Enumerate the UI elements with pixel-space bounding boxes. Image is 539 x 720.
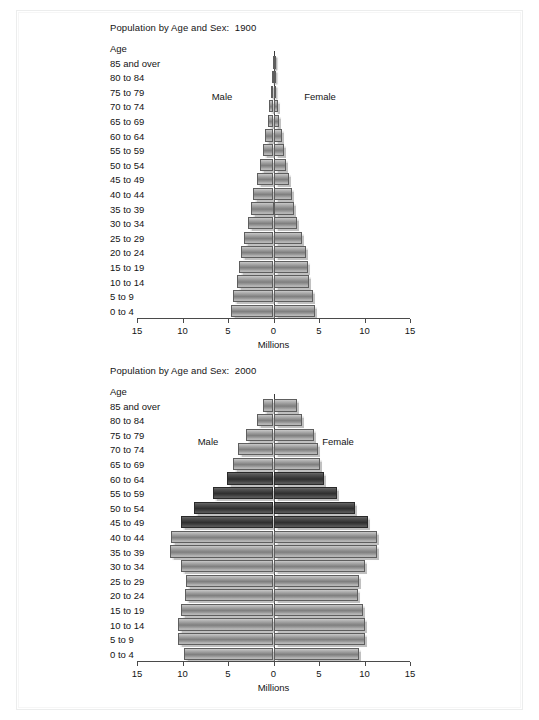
bar-female-25-to-29 [274,232,302,244]
bar-female-5-to-9 [274,633,365,645]
age-label-30-to-34: 30 to 34 [110,218,144,229]
male-annotation: Male [198,436,219,447]
age-label-80-to-84: 80 to 84 [110,72,144,83]
bar-male-50-to-54 [260,159,274,171]
bar-male-85-and-over [263,399,274,411]
age-label-35-to-39: 35 to 39 [110,203,144,214]
x-axis-title: Millions [258,682,290,693]
bar-female-80-to-84 [274,71,276,83]
bar-male-55-to-59 [213,487,273,499]
x-tick-label: 5 [316,668,321,679]
bar-male-80-to-84 [257,414,273,426]
bar-female-65-to-69 [274,458,320,470]
x-tick-label: 15 [132,325,143,336]
x-tick-label: 10 [177,668,188,679]
age-label-50-to-54: 50 to 54 [110,159,144,170]
bar-male-40-to-44 [253,188,273,200]
bar-female-70-to-74 [274,100,278,112]
age-label-20-to-24: 20 to 24 [110,247,144,258]
age-label-65-to-69: 65 to 69 [110,458,144,469]
x-tick [137,319,138,323]
female-annotation: Female [322,436,354,447]
x-tick-label: 5 [225,668,230,679]
bar-male-15-to-19 [181,604,274,616]
bar-male-0-to-4 [184,648,273,660]
plot-area-1900: 0 to 45 to 910 to 1415 to 1920 to 2425 t… [0,0,539,355]
bar-female-30-to-34 [274,560,366,572]
bar-male-75-to-79 [246,429,273,441]
bar-female-70-to-74 [274,443,319,455]
bar-male-5-to-9 [178,633,274,645]
bar-female-35-to-39 [274,202,295,214]
x-tick [365,319,366,323]
bar-male-0-to-4 [231,305,274,317]
age-label-70-to-74: 70 to 74 [110,101,144,112]
bar-female-40-to-44 [274,531,378,543]
age-label-55-to-59: 55 to 59 [110,488,144,499]
bar-female-20-to-24 [274,589,359,601]
x-tick [228,319,229,323]
age-label-15-to-19: 15 to 19 [110,261,144,272]
bar-male-70-to-74 [238,443,273,455]
bar-male-55-to-59 [263,144,273,156]
male-annotation: Male [212,91,233,102]
bar-male-30-to-34 [248,217,273,229]
age-label-25-to-29: 25 to 29 [110,575,144,586]
age-label-10-to-14: 10 to 14 [110,619,144,630]
bar-female-50-to-54 [274,159,287,171]
age-label-60-to-64: 60 to 64 [110,130,144,141]
bar-female-80-to-84 [274,414,302,426]
age-label-45-to-49: 45 to 49 [110,174,144,185]
age-label-0-to-4: 0 to 4 [110,648,134,659]
x-tick-label: 0 [271,668,276,679]
bar-female-75-to-79 [274,429,314,441]
bar-female-45-to-49 [274,516,369,528]
age-label-65-to-69: 65 to 69 [110,115,144,126]
x-tick [410,662,411,666]
bar-male-35-to-39 [170,545,274,557]
bar-female-65-to-69 [274,115,279,127]
bar-female-85-and-over [274,399,298,411]
bar-female-85-and-over [274,56,276,68]
bar-female-0-to-4 [274,305,316,317]
x-tick-label: 10 [177,325,188,336]
age-label-25-to-29: 25 to 29 [110,232,144,243]
x-tick-label: 15 [405,325,416,336]
bar-male-65-to-69 [233,458,273,470]
bar-female-15-to-19 [274,261,309,273]
x-tick-label: 0 [271,325,276,336]
x-axis-title: Millions [258,339,290,350]
age-label-85-and-over: 85 and over [110,400,160,411]
age-label-40-to-44: 40 to 44 [110,531,144,542]
x-tick [319,319,320,323]
bar-female-45-to-49 [274,173,289,185]
bar-male-20-to-24 [241,246,274,258]
age-label-50-to-54: 50 to 54 [110,502,144,513]
x-tick [365,662,366,666]
x-tick [228,662,229,666]
x-tick [137,662,138,666]
bar-male-15-to-19 [239,261,274,273]
bar-male-40-to-44 [171,531,274,543]
x-tick [183,319,184,323]
age-label-0-to-4: 0 to 4 [110,305,134,316]
x-tick [410,319,411,323]
bar-male-50-to-54 [194,502,273,514]
bar-female-35-to-39 [274,545,378,557]
bar-female-55-to-59 [274,144,284,156]
age-label-20-to-24: 20 to 24 [110,590,144,601]
bar-female-60-to-64 [274,129,282,141]
x-tick-label: 10 [359,668,370,679]
bar-female-5-to-9 [274,290,313,302]
bar-male-20-to-24 [185,589,273,601]
age-label-10-to-14: 10 to 14 [110,276,144,287]
bar-female-55-to-59 [274,487,338,499]
bar-female-10-to-14 [274,618,365,630]
bar-female-50-to-54 [274,502,356,514]
bar-female-10-to-14 [274,275,309,287]
bar-male-45-to-49 [257,173,273,185]
bar-female-20-to-24 [274,246,307,258]
x-tick-label: 5 [316,325,321,336]
bar-male-60-to-64 [265,129,273,141]
bar-male-5-to-9 [233,290,273,302]
